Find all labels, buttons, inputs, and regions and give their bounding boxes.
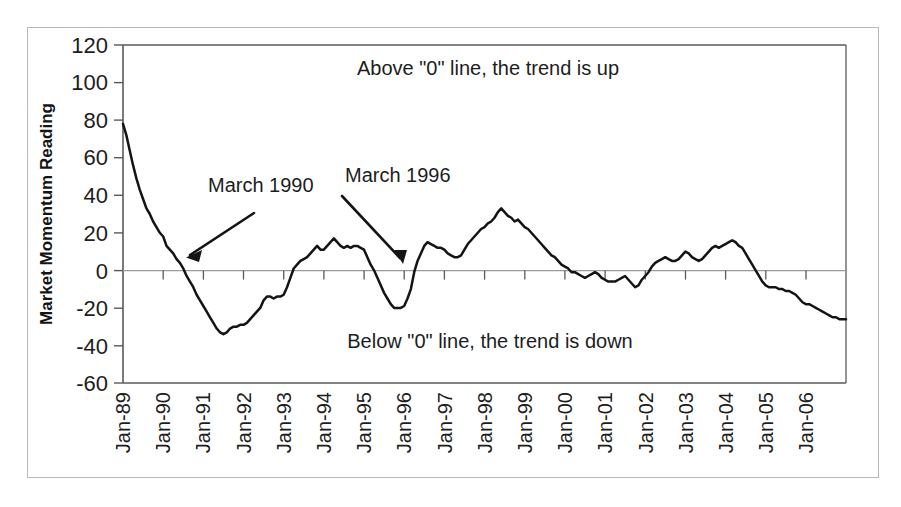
y-tick-label: 60 (84, 145, 108, 170)
y-tick-label: 40 (84, 183, 108, 208)
x-tick-label: Jan-97 (434, 392, 456, 453)
x-axis-ticks (163, 271, 806, 280)
below-zero-note-text: Below "0" line, the trend is down (347, 330, 632, 352)
above-zero-note-text: Above "0" line, the trend is up (357, 57, 619, 79)
above-zero-note: Above "0" line, the trend is up (357, 57, 619, 79)
y-tick-label: 80 (84, 108, 108, 133)
annotation-march-1990: March 1990 (186, 174, 314, 262)
x-tick-label: Jan-89 (112, 392, 134, 453)
x-tick-label: Jan-90 (152, 392, 174, 453)
y-tick-label: 100 (71, 70, 108, 95)
x-tick-label: Jan-96 (393, 392, 415, 453)
annotation-march-1990-label: March 1990 (208, 174, 314, 196)
arrow-march-1990-icon (186, 213, 254, 262)
x-tick-label: Jan-92 (233, 392, 255, 453)
y-tick-label: -20 (76, 296, 108, 321)
market-momentum-chart[interactable]: 120 100 80 60 40 20 0 -20 -40 -60 Market… (0, 0, 901, 507)
arrow-march-1996-icon (342, 196, 407, 264)
y-axis-title-text: Market Momentum Reading (37, 103, 56, 325)
x-axis-tick-labels: Jan-89 Jan-90 Jan-91 Jan-92 Jan-93 Jan-9… (112, 392, 817, 453)
x-tick-label: Jan-04 (715, 392, 737, 453)
chart-figure: 120 100 80 60 40 20 0 -20 -40 -60 Market… (0, 0, 901, 507)
y-axis-title: Market Momentum Reading (37, 103, 56, 325)
x-tick-label: Jan-98 (474, 392, 496, 453)
below-zero-note: Below "0" line, the trend is down (347, 330, 632, 352)
annotation-march-1996: March 1996 (342, 164, 451, 264)
x-tick-label: Jan-05 (755, 392, 777, 453)
x-tick-label: Jan-95 (353, 392, 375, 453)
y-axis-tick-labels: 120 100 80 60 40 20 0 -20 -40 -60 (71, 33, 108, 396)
x-tick-label: Jan-06 (795, 392, 817, 453)
y-tick-label: -60 (76, 371, 108, 396)
x-tick-label: Jan-99 (514, 392, 536, 453)
x-tick-label: Jan-00 (554, 392, 576, 453)
annotation-march-1996-label: March 1996 (345, 164, 451, 186)
x-tick-label: Jan-91 (192, 392, 214, 453)
x-tick-label: Jan-94 (313, 392, 335, 453)
x-tick-label: Jan-02 (635, 392, 657, 453)
y-tick-label: 20 (84, 221, 108, 246)
x-tick-label: Jan-93 (273, 392, 295, 453)
y-tick-label: 120 (71, 33, 108, 58)
y-tick-label: 0 (96, 259, 108, 284)
x-tick-label: Jan-01 (594, 392, 616, 453)
x-tick-label: Jan-03 (675, 392, 697, 453)
y-tick-label: -40 (76, 334, 108, 359)
y-axis-ticks (114, 45, 123, 383)
